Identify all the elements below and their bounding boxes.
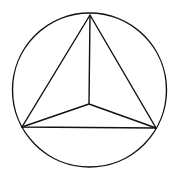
segment-inner-left — [22, 104, 89, 127]
segment-inner-right — [89, 104, 156, 128]
segment-inner-top — [89, 15, 90, 104]
circle-triangle-diagram — [0, 0, 176, 176]
